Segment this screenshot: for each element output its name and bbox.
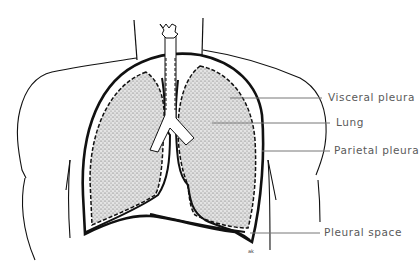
larynx-icon (160, 24, 178, 38)
label-visceral-pleura: Visceral pleura (328, 92, 415, 103)
label-parietal-pleura: Parietal pleura (334, 145, 419, 156)
artist-signature: ak (248, 248, 254, 254)
lung-right-side (178, 66, 256, 228)
label-lung: Lung (336, 117, 364, 128)
label-pleural-space: Pleural space (324, 227, 402, 238)
